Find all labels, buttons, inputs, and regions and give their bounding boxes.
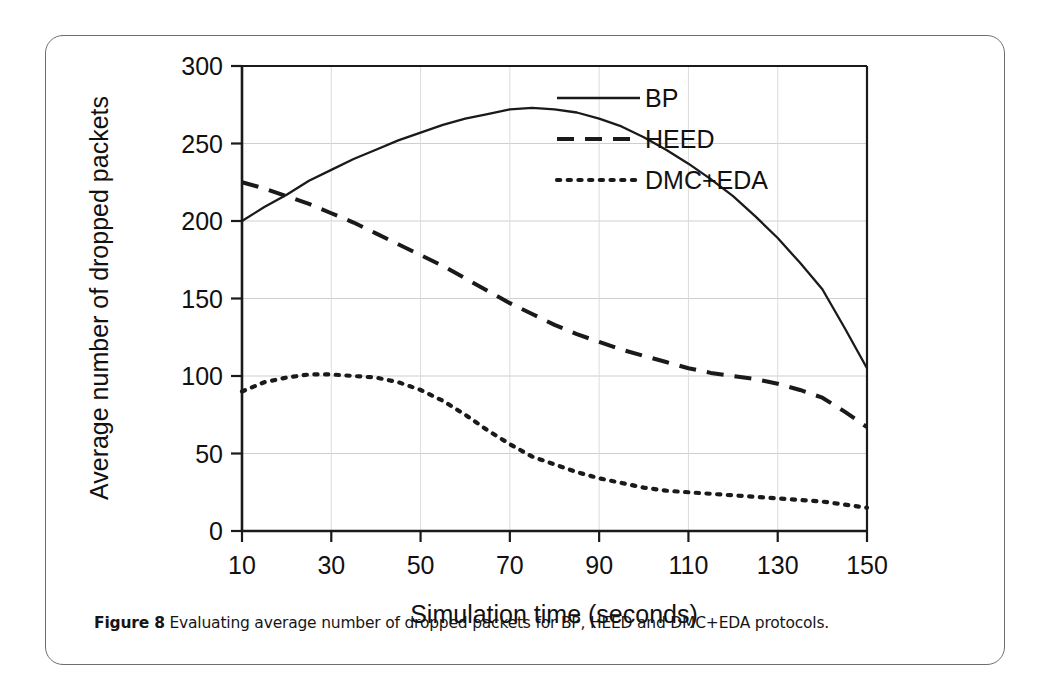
y-tick-label: 150 — [181, 285, 223, 313]
legend-label-bp: BP — [645, 84, 678, 112]
x-tick-label: 70 — [496, 551, 524, 579]
x-tick-label: 90 — [585, 551, 613, 579]
x-tick-label: 10 — [228, 551, 256, 579]
y-axis-title: Average number of dropped packets — [85, 96, 113, 500]
x-tick-label: 50 — [407, 551, 435, 579]
y-tick-label: 100 — [181, 362, 223, 390]
x-tick-label: 30 — [317, 551, 345, 579]
figure-frame: 050100150200250300 1030507090110130150 A… — [45, 35, 1005, 665]
y-tick-label: 250 — [181, 130, 223, 158]
chart-canvas: 050100150200250300 1030507090110130150 A… — [46, 36, 1006, 666]
y-tick-label: 200 — [181, 207, 223, 235]
figure-caption-text: Evaluating average number of dropped pac… — [165, 614, 829, 632]
y-axis-ticks — [231, 66, 242, 531]
x-tick-label: 150 — [846, 551, 888, 579]
figure-caption: Figure 8 Evaluating average number of dr… — [94, 614, 984, 633]
figure-caption-label: Figure 8 — [94, 614, 165, 632]
y-axis-tick-labels: 050100150200250300 — [181, 52, 223, 545]
legend-label-heed: HEED — [645, 125, 714, 153]
y-tick-label: 50 — [195, 440, 223, 468]
legend-label-dmc-eda: DMC+EDA — [645, 166, 768, 194]
x-axis-ticks — [242, 531, 867, 542]
x-tick-label: 110 — [668, 551, 708, 579]
y-tick-label: 300 — [181, 52, 223, 80]
y-tick-label: 0 — [209, 517, 223, 545]
x-tick-label: 130 — [757, 551, 799, 579]
x-axis-tick-labels: 1030507090110130150 — [228, 551, 888, 579]
